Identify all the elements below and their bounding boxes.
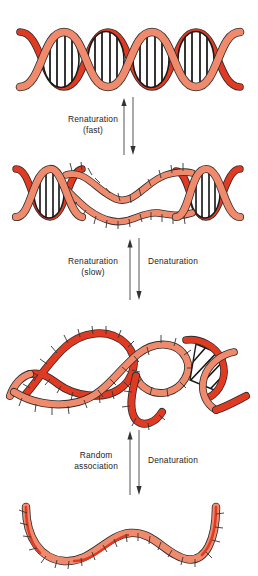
arrow-label-denaturation-middle: Denaturation: [148, 256, 198, 267]
arrow-up-renaturation-slow: [127, 239, 132, 300]
arrow-group-middle: Renaturation (slow) Denaturation: [0, 238, 258, 300]
state-random-coil: [0, 300, 258, 430]
arrow-label-sub: association: [74, 461, 118, 472]
arrow-group-top: Renaturation (fast): [0, 97, 258, 155]
arrow-label-renaturation-fast: Renaturation (fast): [68, 114, 118, 136]
arrow-label-main: Renaturation: [68, 114, 118, 124]
state-native-duplex: [0, 22, 258, 97]
arrow-label-main: Renaturation: [68, 256, 118, 266]
arrow-label-random-association: Random association: [74, 450, 118, 472]
arrow-label-renaturation-slow: Renaturation (slow): [68, 256, 118, 278]
arrow-down-denaturation: [130, 97, 135, 155]
dna-denaturation-diagram: Renaturation (fast): [0, 0, 258, 576]
denaturation-bubble-lower-strand: [64, 187, 192, 229]
arrow-label-main: Random: [80, 450, 113, 460]
state-single-strand: [0, 495, 258, 576]
coil-tail-right: [216, 396, 246, 410]
arrow-up-random-association: [127, 431, 132, 495]
state-partially-denatured: [0, 155, 258, 238]
arrow-up-renaturation-fast: [121, 98, 126, 155]
arrow-down-denaturation: [136, 238, 141, 300]
arrow-label-sub: (fast): [68, 125, 118, 136]
residual-basepair-duplex: [186, 338, 234, 410]
arrow-label-sub: (slow): [68, 267, 118, 278]
arrow-label-main: Denaturation: [148, 256, 198, 266]
single-strand-backbone: [26, 507, 216, 561]
arrow-down-denaturation: [136, 430, 141, 495]
arrow-label-denaturation-bottom: Denaturation: [148, 455, 198, 466]
arrow-label-main: Denaturation: [148, 455, 198, 465]
arrow-group-bottom: Random association Denaturation: [0, 430, 258, 495]
